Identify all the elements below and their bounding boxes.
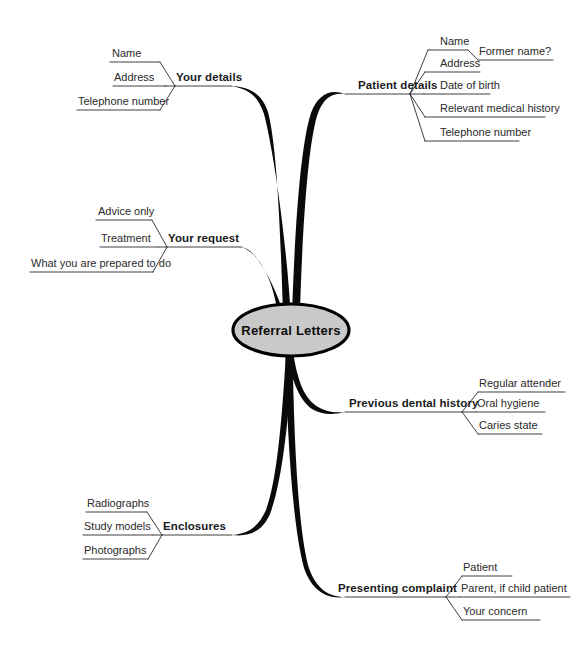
subnode-label-enclosures-study-models[interactable]: Study models [84, 520, 151, 533]
branch-label-your-request[interactable]: Your request [168, 232, 239, 245]
subnode-label-patient-details-name[interactable]: Name [440, 35, 469, 48]
subnode-label-enclosures-radiographs[interactable]: Radiographs [87, 497, 149, 510]
subnode-label-your-details-address[interactable]: Address [114, 71, 154, 84]
branch-label-presenting-complaint[interactable]: Presenting complaint [338, 582, 457, 595]
subnode-label-your-details-telephone-number[interactable]: Telephone number [78, 95, 169, 108]
subnode-label-presenting-complaint-your-concern[interactable]: Your concern [463, 605, 527, 618]
mind-map-diagram: Referral Letters Your details Name Addre… [0, 0, 576, 663]
branch-curve-patient-details [292, 92, 346, 330]
subnode-label-patient-details-relevant-medical-history[interactable]: Relevant medical history [440, 102, 560, 115]
branch-curve-previous-dental-history [286, 352, 345, 414]
branch-label-enclosures[interactable]: Enclosures [163, 520, 226, 533]
subnode-label-your-request-advice-only[interactable]: Advice only [98, 205, 154, 218]
subnode-label-patient-details-former-name[interactable]: Former name? [479, 45, 551, 58]
branch-curve-enclosures [232, 352, 293, 535]
subnode-label-your-details-name[interactable]: Name [112, 47, 141, 60]
subnode-label-your-request-treatment[interactable]: Treatment [101, 232, 151, 245]
branch-label-previous-dental-history[interactable]: Previous dental history [349, 397, 478, 410]
branch-label-patient-details[interactable]: Patient details [358, 79, 437, 92]
subnode-label-presenting-complaint-patient[interactable]: Patient [463, 561, 497, 574]
central-node-label: Referral Letters [241, 323, 340, 338]
subnode-label-previous-dental-history-oral-hygiene[interactable]: Oral hygiene [477, 397, 539, 410]
branch-curve-presenting-complaint [286, 352, 346, 597]
branch-curve-your-details [232, 86, 292, 330]
subnode-label-patient-details-date-of-birth[interactable]: Date of birth [440, 79, 500, 92]
branch-label-your-details[interactable]: Your details [176, 71, 242, 84]
subnode-label-patient-details-address[interactable]: Address [440, 57, 480, 70]
subnode-label-previous-dental-history-regular-attender[interactable]: Regular attender [479, 377, 561, 390]
subnode-label-previous-dental-history-caries-state[interactable]: Caries state [479, 419, 538, 432]
subnode-label-enclosures-photographs[interactable]: Photographs [84, 544, 146, 557]
subnode-label-presenting-complaint-parent-if-child-patient[interactable]: Parent, if child patient [461, 582, 567, 595]
subnode-label-your-request-what-you-are-prepared-to-do[interactable]: What you are prepared to do [31, 257, 171, 270]
subnode-label-patient-details-telephone-number[interactable]: Telephone number [440, 126, 531, 139]
